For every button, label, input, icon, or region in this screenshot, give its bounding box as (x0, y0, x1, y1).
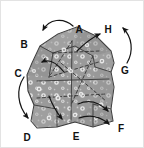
figure-frame: A B C D E F G H (0, 0, 144, 148)
label-G: G (121, 65, 129, 76)
label-F: F (118, 123, 124, 134)
label-C: C (14, 68, 21, 79)
label-H: H (104, 24, 111, 35)
label-D: D (23, 132, 30, 143)
rock-body (27, 27, 114, 128)
label-A: A (75, 24, 82, 35)
arrow-C (19, 77, 28, 118)
rock-diagram: A B C D E F G H (1, 1, 144, 148)
label-E: E (73, 131, 80, 142)
arrow-G (123, 28, 131, 63)
arrow-A (43, 20, 73, 30)
label-B: B (20, 39, 27, 50)
